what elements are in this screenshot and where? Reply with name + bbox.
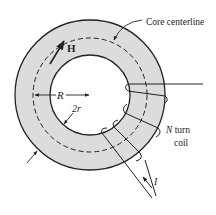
toroid-diagram: H R 2r Core centerline N turn coil I [0,0,216,215]
minor-diameter-arrow-outer [27,151,37,163]
major-radius-label: R [56,89,64,101]
coil-label-line1: N turn [165,125,190,135]
core-centerline-label: Core centerline [146,17,204,27]
current-label: I [153,176,158,187]
minor-diameter-label: 2r [72,103,81,114]
h-field-label: H [67,42,76,54]
coil-turns-word: turn [172,125,190,135]
coil-label-line2: coil [174,138,189,148]
